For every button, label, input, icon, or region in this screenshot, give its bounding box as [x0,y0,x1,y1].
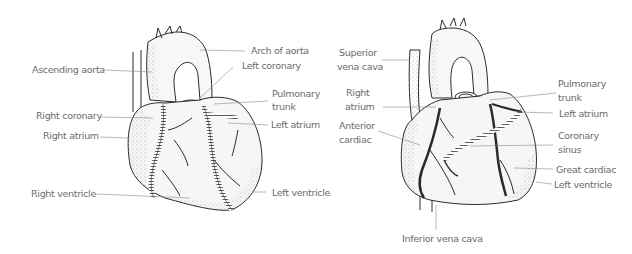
label-left-atrium: Left atrium [271,118,320,131]
label-coronary-sinus-line1: Coronary [558,129,599,142]
label-anterior-cardiac-line1: Anterior [339,119,375,132]
label-pulmonary-trunk-line2: trunk [558,91,582,104]
label-superior-vena-cava-line1: Superior [339,46,377,59]
venous-heart [401,18,536,212]
label-inferior-vena-cava: Inferior vena cava [402,232,483,245]
label-pulmonary-trunk-line1: Pulmonary [272,87,320,100]
label-left-ventricle: Left ventricle [272,186,330,199]
label-right-atrium-line1: Right [346,86,370,99]
label-great-cardiac: Great cardiac [556,163,616,176]
label-arch-of-aorta: Arch of aorta [251,44,309,57]
label-anterior-cardiac-line2: cardiac [339,133,371,146]
label-right-atrium: Right atrium [43,129,99,142]
label-superior-vena-cava-line2: vena cava [337,60,383,73]
label-right-atrium-line2: atrium [345,100,375,113]
label-pulmonary-trunk-line2: trunk [272,100,296,113]
label-right-ventricle: Right ventricle [31,187,96,200]
label-coronary-sinus-line2: sinus [558,143,581,156]
label-left-coronary: Left coronary [242,59,301,72]
label-left-atrium: Left atrium [559,107,608,120]
label-ascending-aorta: Ascending aorta [32,63,105,76]
label-pulmonary-trunk-line1: Pulmonary [558,77,606,90]
label-right-coronary: Right coronary [36,109,102,122]
label-left-ventricle: Left ventricle [554,178,612,191]
heart-diagram: Arch of aorta Ascending aorta Left coron… [0,0,632,254]
